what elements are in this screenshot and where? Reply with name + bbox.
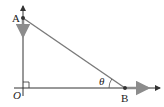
right-angle-marker [23, 82, 29, 88]
segment-ab [23, 18, 125, 88]
angle-arc [109, 79, 112, 88]
label-a: A [12, 12, 20, 24]
point-a [21, 16, 25, 20]
label-theta: θ [99, 75, 105, 87]
label-b: B [121, 92, 128, 104]
point-b [123, 86, 127, 90]
ladder-diagram: A B O θ [0, 0, 164, 107]
label-origin: O [13, 89, 21, 101]
